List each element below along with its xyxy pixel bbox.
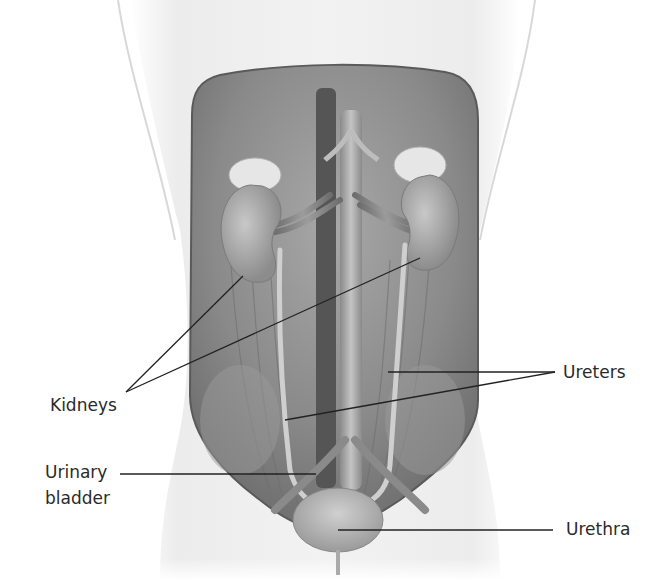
urinary-bladder-label-line1: Urinary [45,462,107,483]
ureters-label: Ureters [563,362,626,383]
vena-cava [316,88,336,488]
urinary-bladder-label-line2: bladder [45,488,110,509]
urethra-label: Urethra [566,519,630,540]
urinary-bladder [293,488,383,552]
kidneys-label: Kidneys [50,395,117,416]
